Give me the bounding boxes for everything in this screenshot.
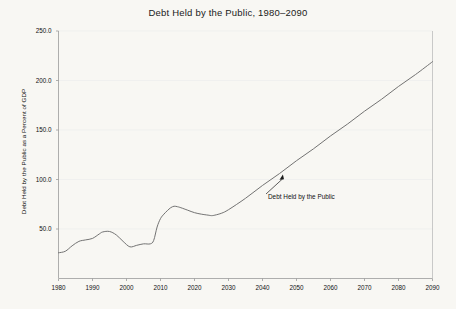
series-annotation-label: Debt Held by the Public (268, 193, 335, 200)
x-axis-tick-label: 2020 (180, 284, 210, 291)
x-axis-tick-label: 2090 (418, 284, 448, 291)
y-axis-tick-label: 250.0 (22, 27, 52, 34)
x-axis-tick-label: 2040 (248, 284, 278, 291)
plot-area (0, 0, 456, 309)
x-axis-tick-label: 2070 (350, 284, 380, 291)
x-axis-tick-label: 1980 (44, 284, 74, 291)
x-axis-tick-label: 2060 (316, 284, 346, 291)
y-axis-tick-label: 150.0 (22, 126, 52, 133)
gridlines (59, 31, 433, 229)
x-axis-tick-label: 2010 (146, 284, 176, 291)
y-axis-tick-label: 200.0 (22, 77, 52, 84)
x-axis-tick-label: 2000 (112, 284, 142, 291)
y-axis-tick-label: 100.0 (22, 176, 52, 183)
series-line-debt-held-by-the-public (59, 62, 433, 253)
annotation-arrow-icon (266, 175, 284, 194)
y-axis-tick-label: 50.0 (22, 225, 52, 232)
x-axis-tick-label: 2030 (214, 284, 244, 291)
x-axis-tick-label: 2080 (384, 284, 414, 291)
x-axis-tick-label: 1990 (78, 284, 108, 291)
chart-figure: Debt Held by the Public, 1980–2090 Debt … (0, 0, 456, 309)
x-axis-tick-label: 2050 (282, 284, 312, 291)
